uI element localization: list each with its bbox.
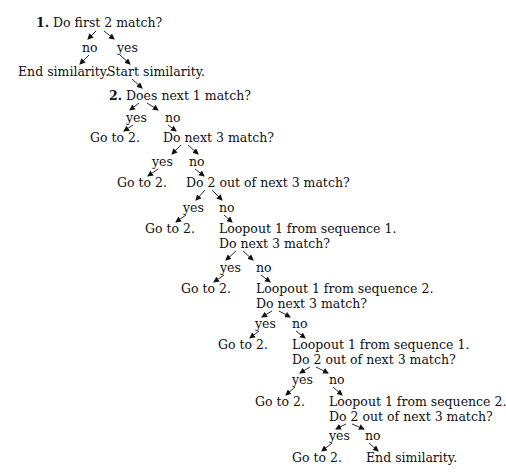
go-to-2: Go to 2. <box>117 175 167 190</box>
question-6: Do next 3 match? <box>256 296 367 311</box>
loopout-step: Loopout 1 from sequence 2. <box>256 281 433 296</box>
go-to-2: Go to 2. <box>145 221 195 236</box>
go-to-2: Go to 2. <box>218 337 268 352</box>
arrow-icon <box>279 311 290 317</box>
arrow-icon <box>172 145 181 154</box>
go-to-2: Go to 2. <box>90 130 140 145</box>
branch-yes: yes <box>126 110 147 125</box>
branch-yes: yes <box>255 316 276 331</box>
arrow-icon <box>120 55 130 64</box>
arrow-icon <box>104 31 114 39</box>
branch-no: no <box>165 110 181 125</box>
branch-no: no <box>219 200 235 215</box>
arrow-icon <box>147 103 158 110</box>
start-similarity: Start similarity. <box>107 64 205 79</box>
arrow-icon <box>316 367 328 373</box>
branch-yes: yes <box>183 200 204 215</box>
branch-yes: yes <box>220 260 241 275</box>
question-8: Do 2 out of next 3 match? <box>329 409 493 424</box>
branch-no: no <box>82 40 98 55</box>
go-to-2: Go to 2. <box>292 450 342 465</box>
arrow-icon <box>188 145 198 154</box>
arrow-icon <box>130 103 139 110</box>
branch-no: no <box>292 316 308 331</box>
branch-no: no <box>256 260 272 275</box>
arrow-icon <box>226 251 236 260</box>
end-similarity: End similarity. <box>366 450 457 465</box>
go-to-2: Go to 2. <box>255 394 305 409</box>
arrow-icon <box>88 31 96 39</box>
branch-no: no <box>365 428 381 443</box>
step-number: 2. <box>109 88 122 103</box>
question-4: Do 2 out of next 3 match? <box>186 175 350 190</box>
question-5: Do next 3 match? <box>219 236 330 251</box>
question-3: Do next 3 match? <box>163 130 274 145</box>
question-2: 2. Does next 1 match? <box>109 88 251 103</box>
question-1: 1. Do first 2 match? <box>36 15 162 30</box>
step-number: 1. <box>36 15 49 30</box>
branch-yes: yes <box>117 40 138 55</box>
go-to-2: Go to 2. <box>181 281 231 296</box>
branch-yes: yes <box>152 154 173 169</box>
loopout-step: Loopout 1 from sequence 1. <box>219 221 396 236</box>
end-similarity: End similarity. <box>18 64 109 79</box>
arrow-icon <box>352 424 364 429</box>
arrow-icon <box>196 190 205 200</box>
branch-no: no <box>189 154 205 169</box>
question-7: Do 2 out of next 3 match? <box>292 352 456 367</box>
loopout-step: Loopout 1 from sequence 1. <box>292 337 469 352</box>
branch-yes: yes <box>329 428 350 443</box>
arrow-icon <box>212 190 222 200</box>
loopout-step: Loopout 1 from sequence 2. <box>329 394 506 409</box>
arrow-icon <box>80 55 89 64</box>
arrow-icon <box>243 251 253 260</box>
branch-yes: yes <box>292 372 313 387</box>
branch-no: no <box>329 372 345 387</box>
arrow-icon <box>132 79 142 88</box>
